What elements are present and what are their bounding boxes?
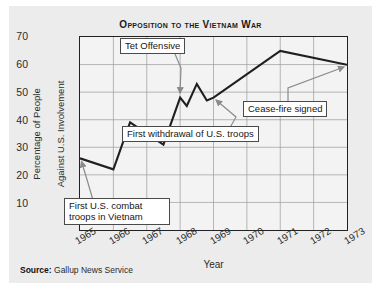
source-prefix: Source: — [20, 265, 52, 275]
callout-tet-offensive[interactable]: Tet Offensive — [120, 38, 185, 54]
callout-first-us-combat-troops-line1: First U.S. combat — [69, 200, 165, 211]
x-tick-1965: 1965 — [73, 225, 98, 246]
y-tick-20: 20 — [0, 169, 28, 181]
callout-cease-fire-text: Cease-fire signed — [248, 103, 322, 114]
chart-panel: Opposition to the Vietnam War Percentage… — [9, 6, 372, 283]
y-tick-60: 60 — [0, 58, 28, 70]
callout-tet-offensive-text: Tet Offensive — [125, 40, 180, 51]
chart-title: Opposition to the Vietnam War — [9, 19, 372, 30]
chart-page: Opposition to the Vietnam War Percentage… — [0, 0, 381, 296]
source-note: Source: Gallup News Service — [20, 265, 133, 275]
y-tick-30: 30 — [0, 141, 28, 153]
callout-first-withdrawal[interactable]: First withdrawal of U.S. troops — [122, 126, 259, 142]
y-axis-label: Percentage of People Against U.S. Involv… — [23, 36, 57, 231]
y-tick-50: 50 — [0, 86, 28, 98]
callout-first-us-combat-troops-line2: troops in Vietnam — [69, 211, 165, 222]
y-tick-70: 70 — [0, 30, 28, 42]
callout-first-withdrawal-text: First withdrawal of U.S. troops — [127, 128, 254, 139]
callout-first-us-combat-troops[interactable]: First U.S. combat troops in Vietnam — [64, 198, 170, 225]
callout-cease-fire[interactable]: Cease-fire signed — [243, 101, 327, 117]
y-axis-label-line1: Percentage of People — [31, 44, 43, 224]
source-text: Gallup News Service — [54, 265, 133, 275]
y-axis-label-line2: Against U.S. Involvement — [55, 44, 67, 224]
y-tick-40: 40 — [0, 114, 28, 126]
y-tick-10: 10 — [0, 197, 28, 209]
